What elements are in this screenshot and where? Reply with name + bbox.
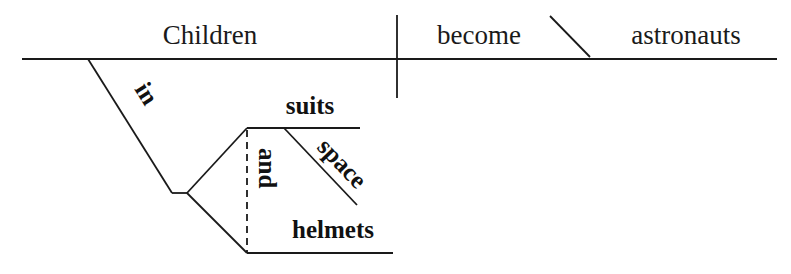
compound-fork-lower xyxy=(187,193,247,253)
preposition-slant-line xyxy=(88,59,172,193)
word-modifier: space xyxy=(312,133,372,194)
word-object-1: suits xyxy=(286,92,335,119)
word-verb: become xyxy=(437,20,521,50)
word-predicate-nominative: astronauts xyxy=(631,20,740,50)
sentence-diagram: Children become astronauts in suits spac… xyxy=(0,0,791,274)
word-object-2: helmets xyxy=(292,216,374,243)
compound-fork-upper xyxy=(187,128,247,193)
predicate-nominative-slash xyxy=(550,16,590,57)
word-subject: Children xyxy=(163,20,258,50)
word-conjunction: and xyxy=(254,148,281,188)
word-preposition: in xyxy=(130,77,164,109)
